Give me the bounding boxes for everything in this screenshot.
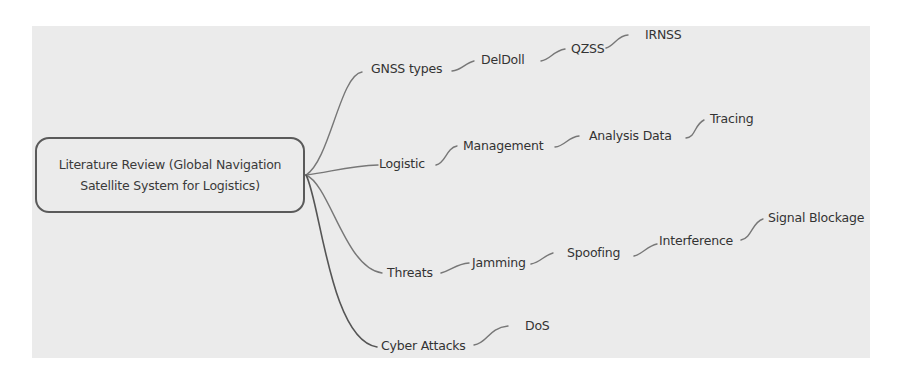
node-qzss[interactable]: QZSS xyxy=(571,41,604,56)
node-management[interactable]: Management xyxy=(463,138,543,153)
branch-gnss-types[interactable]: GNSS types xyxy=(371,61,442,76)
node-signal-blockage[interactable]: Signal Blockage xyxy=(768,210,864,225)
root-topic-line1: Literature Review (Global Navigation xyxy=(59,154,282,175)
branch-threats[interactable]: Threats xyxy=(387,265,433,280)
node-jamming[interactable]: Jamming xyxy=(472,255,526,270)
node-dos[interactable]: DoS xyxy=(525,318,550,333)
node-interference[interactable]: Interference xyxy=(659,233,733,248)
root-topic-line2: Satellite System for Logistics) xyxy=(59,175,282,196)
branch-logistic[interactable]: Logistic xyxy=(379,156,425,171)
node-spoofing[interactable]: Spoofing xyxy=(567,245,620,260)
node-deldoll[interactable]: DelDoll xyxy=(481,52,525,67)
node-analysis-data[interactable]: Analysis Data xyxy=(589,128,672,143)
node-tracing[interactable]: Tracing xyxy=(710,111,753,126)
branch-cyber-attacks[interactable]: Cyber Attacks xyxy=(381,338,466,353)
node-irnss[interactable]: IRNSS xyxy=(645,27,682,42)
root-topic[interactable]: Literature Review (Global Navigation Sat… xyxy=(35,137,305,213)
